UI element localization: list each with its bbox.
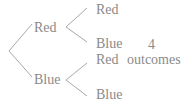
branch-root-to-red [9, 24, 32, 51]
node-level1-red: Red [34, 21, 57, 35]
node-red-red: Red [96, 3, 119, 17]
tree-diagram: Red Blue Red Blue Red Blue 4 outcomes [0, 0, 192, 111]
outcome-count: 4 [148, 38, 155, 52]
node-red-blue: Blue [96, 37, 122, 51]
branch-red-to-blue [66, 27, 87, 42]
node-level1-blue: Blue [34, 73, 60, 87]
branch-blue-to-red [66, 63, 87, 80]
branch-root-to-blue [9, 51, 32, 77]
node-blue-red: Red [96, 53, 119, 67]
branch-blue-to-blue [66, 80, 87, 96]
outcome-label: outcomes [127, 53, 181, 67]
node-blue-blue: Blue [96, 88, 122, 102]
branch-red-to-red [66, 8, 87, 27]
